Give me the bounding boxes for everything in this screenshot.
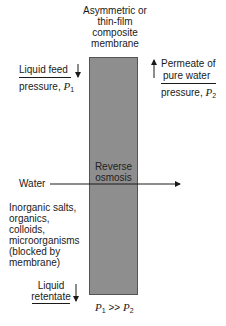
arrows-layer bbox=[0, 0, 226, 326]
